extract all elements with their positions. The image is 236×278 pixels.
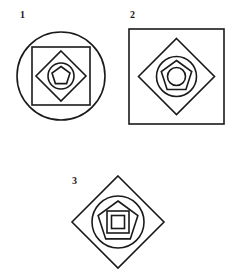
figure-3-outer-square	[107, 211, 129, 233]
figure-2-outer-square	[129, 29, 224, 124]
figure-1-outer-circle	[17, 32, 105, 120]
figure-2-diamond	[139, 39, 215, 115]
figure-1-diamond	[36, 51, 86, 101]
figure-1-canvas	[8, 6, 114, 130]
figure-3-canvas	[62, 172, 174, 278]
figure-1-square	[32, 47, 90, 105]
figure-2-canvas	[122, 6, 230, 130]
figure-3-outer-diamond	[72, 176, 164, 268]
figure-2-inner-circle	[168, 68, 186, 86]
figure-1-pentagon	[52, 67, 70, 84]
figure-3-inner-square	[112, 216, 125, 229]
